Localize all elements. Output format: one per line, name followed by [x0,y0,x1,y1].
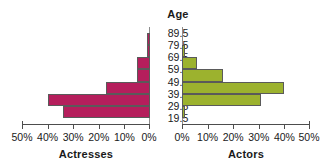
actors-panel-caption: Actors [182,148,310,160]
x-axis-end-cap [309,121,310,125]
bar-actors-39.5-49.5 [182,82,284,94]
x-tick-actresses-20 [99,124,100,129]
bar-actresses-79.5-89.5 [147,33,150,45]
bar-actors-49.5-59.5 [182,69,223,81]
x-axis-end-cap [22,121,23,125]
x-tick-actors-30 [259,124,260,129]
age-axis-title: Age [155,8,201,20]
bar-actresses-39.5-49.5 [106,82,150,94]
actors-x-tick-labels: 0%10%20%30%40%50% [182,131,310,145]
population-pyramid-chart: Age 89.579.569.559.549.539.529.519.5 50%… [0,0,332,167]
x-tick-actresses-30 [73,124,74,129]
actresses-bars [22,27,150,124]
x-tick-actors-40 [284,124,285,129]
actresses-plot-panel [22,27,150,124]
bar-actors-69.5-79.5 [182,45,185,57]
actors-x-axis [182,124,310,130]
x-tick-actresses-10 [124,124,125,129]
actresses-x-axis [22,124,150,130]
bar-actresses-59.5-69.5 [137,57,150,69]
bar-actors-19.5-29.5 [182,106,185,118]
bar-actors-29.5-39.5 [182,94,261,106]
x-tick-label-actresses-0: 0% [132,131,166,143]
x-tick-actresses-0 [149,124,150,129]
x-tick-actresses-40 [48,124,49,129]
bar-actresses-69.5-79.5 [147,45,150,57]
bar-actresses-29.5-39.5 [48,94,150,106]
bar-actresses-49.5-59.5 [137,69,150,81]
bar-actors-59.5-69.5 [182,57,197,69]
x-tick-label-actors-50: 50% [292,131,326,143]
axis-line [22,124,150,125]
x-tick-actors-20 [233,124,234,129]
x-tick-actors-0 [182,124,183,129]
axis-line [182,124,310,125]
bar-actresses-19.5-29.5 [63,106,150,118]
actors-bars [182,27,310,124]
actresses-panel-caption: Actresses [22,148,150,160]
x-tick-actors-10 [208,124,209,129]
actors-plot-panel [182,27,310,124]
actresses-x-tick-labels: 50%40%30%20%10%0% [22,131,150,145]
